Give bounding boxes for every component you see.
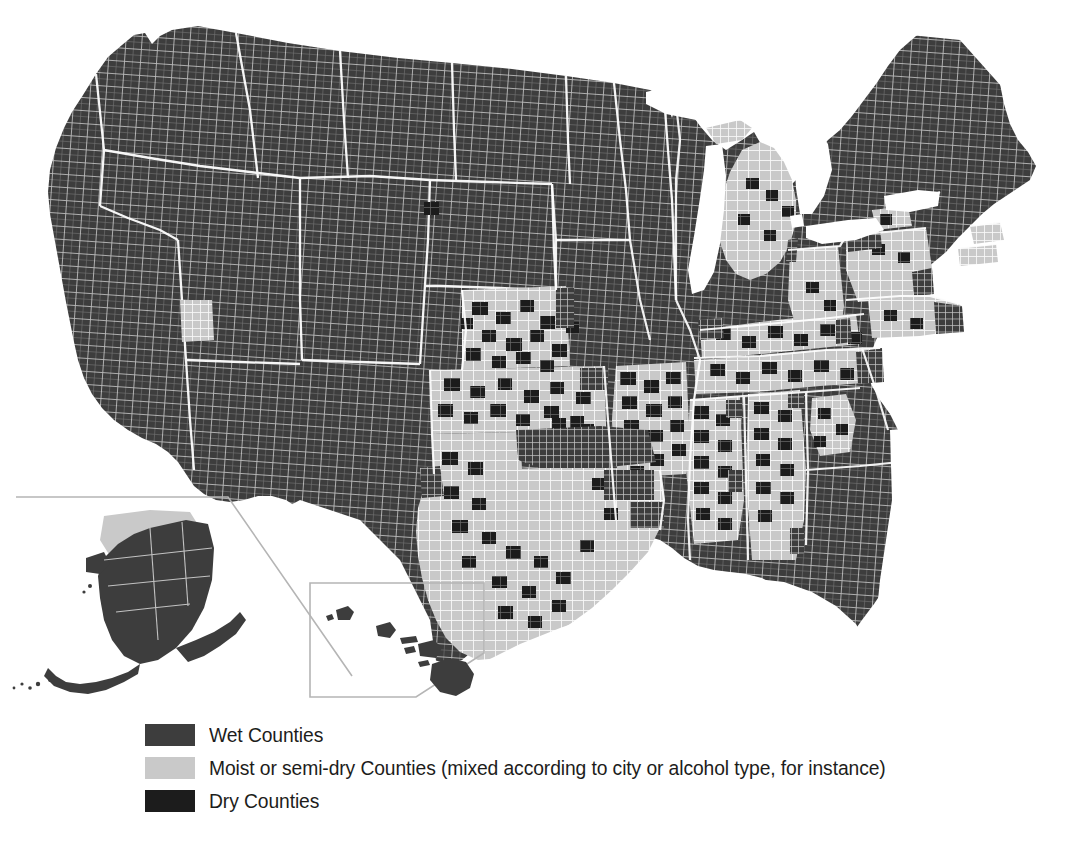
county-alcohol-law-map: Wet Counties Moist or semi-dry Counties …: [0, 0, 1089, 850]
legend-swatch-wet: [145, 724, 195, 746]
legend-swatch-dry: [145, 790, 195, 812]
legend-item-dry: Dry Counties: [145, 784, 1035, 817]
legend-swatch-moist: [145, 757, 195, 779]
legend-label-dry: Dry Counties: [209, 790, 319, 812]
legend-label-wet: Wet Counties: [209, 724, 323, 746]
atlantic-south: [872, 420, 1040, 720]
legend-item-wet: Wet Counties: [145, 718, 1035, 751]
map-legend: Wet Counties Moist or semi-dry Counties …: [145, 718, 1035, 817]
legend-item-moist: Moist or semi-dry Counties (mixed accord…: [145, 751, 1035, 784]
legend-label-moist: Moist or semi-dry Counties (mixed accord…: [209, 757, 886, 779]
lake-st-clair: [790, 214, 804, 228]
moist-nevada: [180, 300, 214, 342]
